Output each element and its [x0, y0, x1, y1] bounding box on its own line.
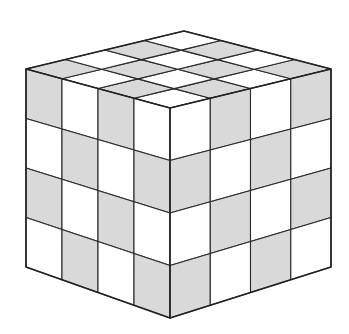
left-face-cell-dark: [134, 254, 170, 319]
cube-left-face: [26, 69, 170, 318]
cube-right-face: [170, 69, 331, 318]
checkerboard-cube: [0, 0, 349, 334]
right-face-cell-dark: [170, 254, 210, 319]
